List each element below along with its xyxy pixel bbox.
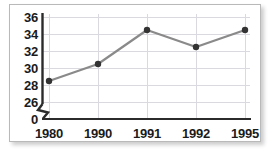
y-tick-label-30: 30: [14, 62, 38, 75]
x-tick-label-1980: 1980: [27, 127, 71, 140]
x-tick-label-1990: 1990: [76, 127, 120, 140]
y-tick-label-0: 0: [14, 113, 38, 126]
y-tick-label-28: 28: [14, 79, 38, 92]
y-axis-break-icon: [38, 104, 48, 119]
data-point-1990: [95, 61, 101, 67]
y-tick-label-34: 34: [14, 28, 38, 41]
line-chart-figure: 36 34 32 30 28 26 0 1980 1990 1991 1992 …: [0, 0, 271, 150]
x-tick-label-1991: 1991: [125, 127, 169, 140]
plot-area: 36 34 32 30 28 26 0 1980 1990 1991 1992 …: [0, 0, 271, 150]
x-tick-label-1992: 1992: [174, 127, 218, 140]
y-tick-label-26: 26: [14, 96, 38, 109]
y-tick-label-32: 32: [14, 45, 38, 58]
data-point-1991: [144, 27, 150, 33]
data-point-1995: [242, 27, 248, 33]
y-tick-label-36: 36: [14, 11, 38, 24]
data-point-1980: [46, 78, 52, 84]
x-tick-label-1995: 1995: [223, 127, 267, 140]
data-point-1992: [193, 44, 199, 50]
